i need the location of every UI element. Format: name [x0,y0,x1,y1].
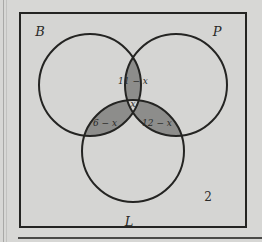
region-label-B-and-L-only: 6 − x [93,118,117,128]
venn-diagram-figure: B P L 11 − x 6 − x 12 − x x 2 [0,0,262,232]
region-label-triple-intersection: x [130,99,135,109]
region-label-outside-all-sets: 2 [204,190,212,204]
page-bottom-rule [18,237,262,239]
region-label-B-and-P-only: 11 − x [118,76,148,86]
set-label-P: P [212,24,222,39]
region-label-P-and-L-only: 12 − x [142,118,172,128]
set-label-B: B [34,24,45,39]
venn-diagram-svg: B P L 11 − x 6 − x 12 − x x 2 [0,0,262,232]
scanned-page: B P L 11 − x 6 − x 12 − x x 2 [0,0,262,242]
set-label-L: L [124,214,134,229]
